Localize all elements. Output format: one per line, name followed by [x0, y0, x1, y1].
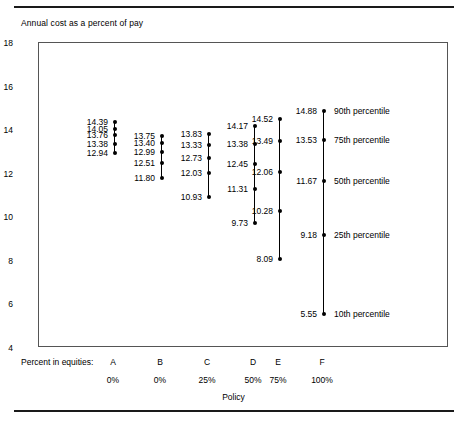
data-point [278, 139, 282, 143]
policy-letter-e: E [258, 357, 298, 367]
policy-equity-pct-a: 0% [91, 375, 135, 385]
data-point [322, 233, 326, 237]
data-point [253, 162, 257, 166]
data-point [207, 143, 211, 147]
y-axis-tick-16: 16 [0, 82, 13, 92]
policy-equity-pct-b: 0% [138, 375, 182, 385]
policy-letter-c: C [187, 357, 227, 367]
data-point [322, 312, 326, 316]
data-point [253, 221, 257, 225]
data-point-label: 12.99 [134, 147, 155, 157]
data-point-label: 12.06 [252, 167, 273, 177]
data-point [207, 156, 211, 160]
chart-figure: Annual cost as a percent of pay 46810121… [0, 0, 467, 424]
y-axis-tick-18: 18 [0, 38, 13, 48]
data-point-label: 11.31 [227, 184, 248, 194]
y-axis-tick-12: 12 [0, 169, 13, 179]
data-point [322, 179, 326, 183]
data-point-label: 13.83 [181, 129, 202, 139]
data-point [113, 142, 117, 146]
data-point [322, 109, 326, 113]
data-point [278, 257, 282, 261]
policy-letter-f: F [302, 357, 342, 367]
policy-equity-pct-c: 25% [185, 375, 229, 385]
y-axis-tick-6: 6 [0, 299, 13, 309]
percentile-label: 75th percentile [334, 135, 390, 145]
data-point-label: 11.67 [296, 176, 317, 186]
data-point [113, 151, 117, 155]
y-axis-tick-10: 10 [0, 212, 13, 222]
data-point-label: 10.93 [181, 192, 202, 202]
y-axis-tick-8: 8 [0, 256, 13, 266]
data-point [278, 117, 282, 121]
data-point-label: 5.55 [300, 309, 317, 319]
data-point-label: 12.73 [181, 153, 202, 163]
plot-area: 4681012141618 14.3914.0513.7613.3812.941… [38, 42, 448, 347]
data-point [207, 132, 211, 136]
data-point [253, 124, 257, 128]
policy-equity-pct-e: 75% [256, 375, 300, 385]
bottom-rule [14, 410, 454, 412]
data-point-label: 14.17 [227, 121, 248, 131]
data-point [253, 187, 257, 191]
x-axis-title: Policy [0, 392, 467, 402]
data-point [207, 195, 211, 199]
top-rule [14, 6, 454, 8]
data-point [278, 209, 282, 213]
y-axis-tick-4: 4 [0, 343, 13, 353]
data-point [113, 133, 117, 137]
data-point [207, 171, 211, 175]
data-point [113, 120, 117, 124]
data-point-label: 9.18 [300, 230, 317, 240]
data-point-label: 12.45 [227, 159, 248, 169]
data-point [160, 150, 164, 154]
data-point [278, 170, 282, 174]
data-point-label: 12.03 [181, 168, 202, 178]
data-point-label: 13.38 [87, 139, 108, 149]
percentile-label: 90th percentile [334, 106, 390, 116]
percentile-label: 10th percentile [334, 309, 390, 319]
data-point [160, 134, 164, 138]
policy-letter-a: A [93, 357, 133, 367]
policy-equity-pct-f: 100% [300, 375, 344, 385]
data-point-label: 9.73 [231, 218, 248, 228]
data-point-label: 13.33 [181, 140, 202, 150]
data-point-label: 13.53 [296, 135, 317, 145]
percentile-label: 25th percentile [334, 230, 390, 240]
data-point [160, 176, 164, 180]
percentile-label: 50th percentile [334, 176, 390, 186]
data-point [113, 127, 117, 131]
data-point-label: 14.52 [252, 114, 273, 124]
policy-letter-b: B [140, 357, 180, 367]
data-point-label: 12.51 [134, 158, 155, 168]
chart-title: Annual cost as a percent of pay [21, 18, 143, 28]
data-point-label: 14.88 [296, 106, 317, 116]
data-point [160, 141, 164, 145]
data-point-label: 10.28 [252, 206, 273, 216]
data-point [160, 161, 164, 165]
y-axis-tick-14: 14 [0, 125, 13, 135]
data-point-label: 13.49 [252, 136, 273, 146]
axis-caption: Percent in equities: [21, 357, 93, 367]
data-point-label: 8.09 [256, 254, 273, 264]
data-point-label: 12.94 [87, 148, 108, 158]
data-point-label: 13.38 [227, 139, 248, 149]
data-point-label: 11.80 [134, 173, 155, 183]
data-point [322, 138, 326, 142]
